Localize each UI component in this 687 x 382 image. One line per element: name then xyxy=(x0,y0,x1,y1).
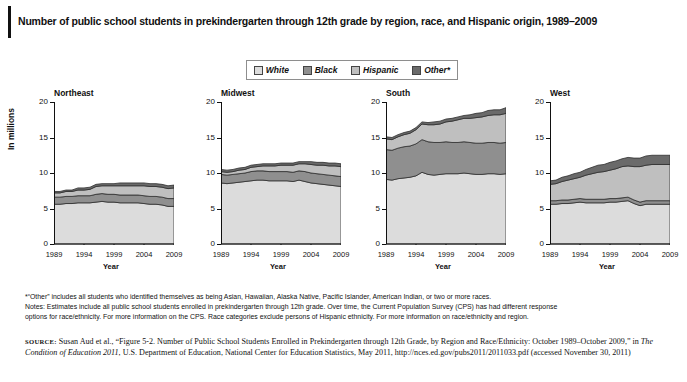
source-part-1: Susan Aud et al., “Figure 5-2. Number of… xyxy=(57,337,641,346)
x-tick-label: 1989 xyxy=(537,250,563,259)
x-tick-label: 1994 xyxy=(71,250,97,259)
legend-item-white: White xyxy=(254,65,289,75)
panel-title-west: West xyxy=(550,88,570,98)
plot-area-south xyxy=(386,102,506,244)
legend-item-black: Black xyxy=(303,65,338,75)
y-tick-label: 0 xyxy=(32,239,48,248)
plot-area-west xyxy=(550,102,670,244)
figure-page: Number of public school students in prek… xyxy=(0,0,687,382)
y-tick-mark xyxy=(382,138,386,139)
y-tick-mark xyxy=(50,244,54,245)
source-part-2: , U.S. Department of Education, National… xyxy=(119,348,631,357)
area-series-white xyxy=(221,180,341,244)
figure-source: SOURCE: Susan Aud et al., “Figure 5-2. N… xyxy=(25,336,680,359)
x-axis-title: Year xyxy=(435,262,451,271)
legend-swatch-hispanic xyxy=(351,66,360,75)
panels-row: Northeast 0510152019891994199920042009Ye… xyxy=(0,88,687,288)
stacked-area-svg xyxy=(550,102,670,245)
y-tick-label: 5 xyxy=(528,204,544,213)
y-tick-mark xyxy=(546,138,550,139)
x-axis-title: Year xyxy=(103,262,119,271)
x-tick-label: 2004 xyxy=(627,250,653,259)
y-tick-label: 15 xyxy=(364,133,380,142)
x-tick-label: 1989 xyxy=(41,250,67,259)
y-tick-mark xyxy=(546,102,550,103)
legend-swatch-white xyxy=(254,66,263,75)
source-label: SOURCE: xyxy=(25,338,57,345)
y-tick-mark xyxy=(382,102,386,103)
x-tick-label: 1999 xyxy=(268,250,294,259)
panel-midwest: Midwest 0510152019891994199920042009Year xyxy=(185,88,353,288)
y-tick-mark xyxy=(382,173,386,174)
area-series-white xyxy=(550,201,670,244)
x-tick-label: 2004 xyxy=(463,250,489,259)
y-tick-mark xyxy=(546,244,550,245)
legend-label-white: White xyxy=(266,65,289,75)
y-tick-mark xyxy=(50,102,54,103)
panel-south: South 0510152019891994199920042009Year xyxy=(350,88,518,288)
x-tick-label: 2009 xyxy=(161,250,187,259)
page-title: Number of public school students in prek… xyxy=(11,16,597,28)
note-line-1: *“Other” includes all students who ident… xyxy=(25,292,675,302)
y-tick-label: 10 xyxy=(364,168,380,177)
legend-label-other: Other* xyxy=(424,65,450,75)
y-tick-mark xyxy=(217,173,221,174)
x-tick-label: 1994 xyxy=(567,250,593,259)
x-tick-label: 1994 xyxy=(238,250,264,259)
y-tick-mark xyxy=(217,244,221,245)
y-tick-mark xyxy=(382,209,386,210)
y-tick-label: 15 xyxy=(528,133,544,142)
note-line-3: options for race/ethnicity. For more inf… xyxy=(25,312,675,322)
legend-label-hispanic: Hispanic xyxy=(363,65,398,75)
panel-title-south: South xyxy=(386,88,410,98)
x-tick-label: 2009 xyxy=(657,250,683,259)
x-tick-label: 1994 xyxy=(403,250,429,259)
legend-swatch-black xyxy=(303,66,312,75)
y-tick-label: 20 xyxy=(32,97,48,106)
area-series-white xyxy=(386,172,506,244)
legend-item-other: Other* xyxy=(412,65,450,75)
y-tick-mark xyxy=(217,102,221,103)
figure-title-band: Number of public school students in prek… xyxy=(8,6,679,38)
y-tick-mark xyxy=(546,209,550,210)
x-tick-label: 1999 xyxy=(101,250,127,259)
stacked-area-svg xyxy=(221,102,341,245)
y-tick-mark xyxy=(50,138,54,139)
legend-label-black: Black xyxy=(315,65,338,75)
panel-title-northeast: Northeast xyxy=(54,88,94,98)
x-tick-label: 1989 xyxy=(208,250,234,259)
y-tick-mark xyxy=(382,244,386,245)
y-tick-label: 0 xyxy=(199,239,215,248)
y-tick-label: 20 xyxy=(364,97,380,106)
y-tick-mark xyxy=(546,173,550,174)
x-axis-title: Year xyxy=(270,262,286,271)
panel-title-midwest: Midwest xyxy=(221,88,255,98)
y-tick-label: 5 xyxy=(364,204,380,213)
panel-northeast: Northeast 0510152019891994199920042009Ye… xyxy=(18,88,186,288)
y-tick-label: 15 xyxy=(199,133,215,142)
stacked-area-svg xyxy=(54,102,174,245)
x-tick-label: 1999 xyxy=(597,250,623,259)
y-tick-mark xyxy=(50,173,54,174)
y-tick-label: 10 xyxy=(199,168,215,177)
x-tick-label: 1999 xyxy=(433,250,459,259)
x-axis-title: Year xyxy=(599,262,615,271)
area-series-white xyxy=(54,201,174,244)
legend-item-hispanic: Hispanic xyxy=(351,65,398,75)
y-tick-label: 0 xyxy=(528,239,544,248)
y-tick-label: 20 xyxy=(199,97,215,106)
y-tick-label: 20 xyxy=(528,97,544,106)
y-tick-mark xyxy=(217,138,221,139)
y-tick-label: 5 xyxy=(199,204,215,213)
panel-west: West 0510152019891994199920042009Year xyxy=(514,88,682,288)
y-tick-label: 15 xyxy=(32,133,48,142)
y-tick-label: 0 xyxy=(364,239,380,248)
y-tick-label: 10 xyxy=(32,168,48,177)
y-tick-label: 5 xyxy=(32,204,48,213)
x-tick-label: 2004 xyxy=(298,250,324,259)
y-tick-mark xyxy=(217,209,221,210)
x-tick-label: 1989 xyxy=(373,250,399,259)
note-line-2: Notes: Estimates include all public scho… xyxy=(25,302,675,312)
legend-swatch-other xyxy=(412,66,421,75)
figure-notes: *“Other” includes all students who ident… xyxy=(25,292,675,322)
